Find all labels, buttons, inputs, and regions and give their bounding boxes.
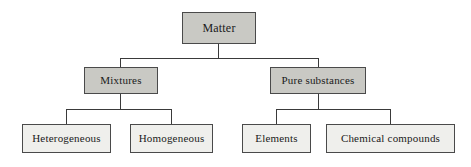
connector-matter-stem	[218, 44, 219, 59]
node-pure-substances: Pure substances	[270, 67, 366, 94]
node-matter-label: Matter	[202, 22, 235, 34]
node-chemical-compounds: Chemical compounds	[326, 124, 455, 153]
node-mixtures: Mixtures	[84, 67, 158, 94]
connector-tier2-horizontal-bar	[120, 58, 318, 59]
node-mixtures-label: Mixtures	[100, 75, 141, 86]
node-chemical-compounds-label: Chemical compounds	[341, 133, 440, 144]
connector-drop-to-heterogeneous	[66, 109, 67, 125]
connector-pure-substances-horizontal-bar	[276, 109, 390, 110]
connector-mixtures-horizontal-bar	[66, 109, 172, 110]
connector-drop-to-elements	[276, 109, 277, 125]
connector-mixtures-stem	[120, 94, 121, 110]
node-elements: Elements	[242, 124, 311, 153]
node-pure-substances-label: Pure substances	[282, 75, 355, 86]
node-heterogeneous-label: Heterogeneous	[32, 133, 101, 144]
node-heterogeneous: Heterogeneous	[22, 124, 111, 153]
matter-classification-diagram: Matter Mixtures Pure substances Heteroge…	[0, 0, 471, 167]
node-matter: Matter	[182, 12, 256, 44]
connector-pure-substances-stem	[318, 94, 319, 110]
node-homogeneous-label: Homogeneous	[139, 133, 205, 144]
connector-drop-to-chemical-compounds	[390, 109, 391, 125]
connector-drop-to-homogeneous	[171, 109, 172, 125]
node-homogeneous: Homogeneous	[130, 124, 213, 153]
node-elements-label: Elements	[255, 133, 298, 144]
